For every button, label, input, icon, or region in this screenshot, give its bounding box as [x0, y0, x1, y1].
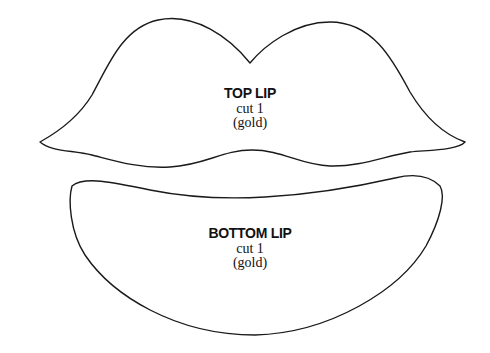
- top-lip-title: TOP LIP: [200, 86, 300, 100]
- lips-pattern-diagram: [0, 0, 490, 353]
- bottom-lip-label: BOTTOM LIP cut 1 (gold): [180, 226, 320, 270]
- top-lip-material: (gold): [200, 116, 300, 130]
- bottom-lip-title: BOTTOM LIP: [180, 226, 320, 240]
- top-lip-quantity: cut 1: [200, 102, 300, 116]
- bottom-lip-quantity: cut 1: [180, 242, 320, 256]
- top-lip-label: TOP LIP cut 1 (gold): [200, 86, 300, 130]
- bottom-lip-material: (gold): [180, 256, 320, 270]
